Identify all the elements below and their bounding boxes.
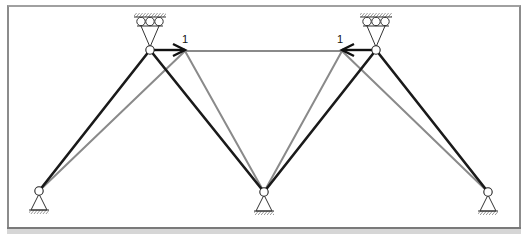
displaced-member (185, 51, 264, 192)
displaced-member (342, 51, 488, 192)
original-members (39, 50, 488, 192)
original-member (376, 50, 488, 192)
joints (35, 46, 492, 196)
joint-hinge-icon (484, 188, 492, 196)
original-member (264, 50, 376, 192)
pin-support-icon (29, 194, 49, 214)
original-member (39, 50, 150, 191)
joint-hinge-icon (260, 188, 268, 196)
load-label: 1 (337, 33, 343, 45)
original-member (150, 50, 264, 192)
displaced-members (39, 51, 488, 192)
load-label: 1 (182, 33, 188, 45)
joint-hinge-icon (35, 187, 43, 195)
displaced-member (39, 51, 185, 191)
displaced-member (264, 51, 342, 192)
pin-support-icon (478, 195, 498, 215)
roller-support-icon (360, 13, 392, 47)
truss-diagram: 11 (0, 0, 528, 234)
joint-hinge-icon (372, 46, 380, 54)
joint-hinge-icon (146, 46, 154, 54)
pin-support-icon (254, 195, 274, 215)
roller-support-icon (134, 13, 166, 47)
